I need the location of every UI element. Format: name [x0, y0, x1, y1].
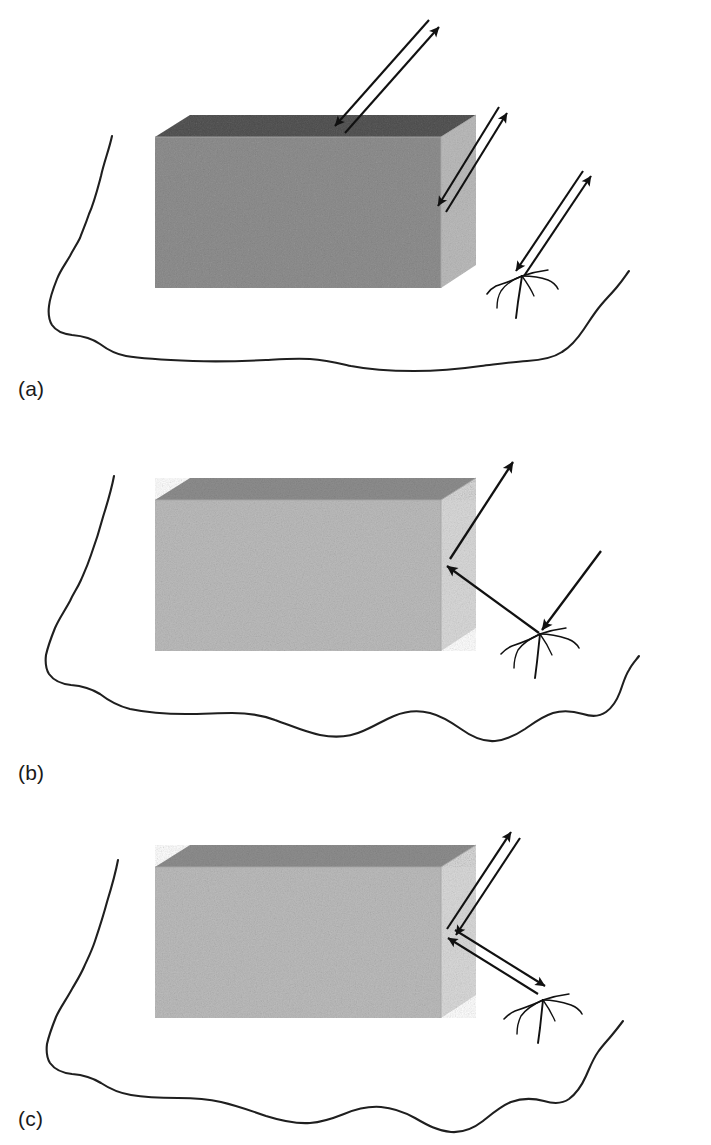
panel-c-canvas [0, 790, 711, 1145]
panel-b-label: (b) [18, 762, 44, 783]
panel-b: (b) [0, 400, 711, 790]
panel-b-canvas [0, 400, 711, 790]
target-box-c [155, 845, 476, 1018]
tree-symbol-b [501, 628, 579, 678]
panel-a: (a) [0, 0, 711, 400]
panel-a-canvas [0, 0, 711, 400]
figure-root: (a) [0, 0, 711, 1145]
panel-a-label: (a) [18, 378, 44, 399]
tree-symbol-a [487, 270, 558, 318]
ray-tree-a [516, 171, 591, 276]
tree-symbol-c [504, 994, 582, 1043]
ray-sky-to-tree-b [542, 551, 601, 630]
target-box-b [155, 478, 476, 651]
panel-c-label: (c) [18, 1108, 43, 1129]
panel-c: (c) [0, 790, 711, 1145]
target-box-a [155, 115, 476, 288]
